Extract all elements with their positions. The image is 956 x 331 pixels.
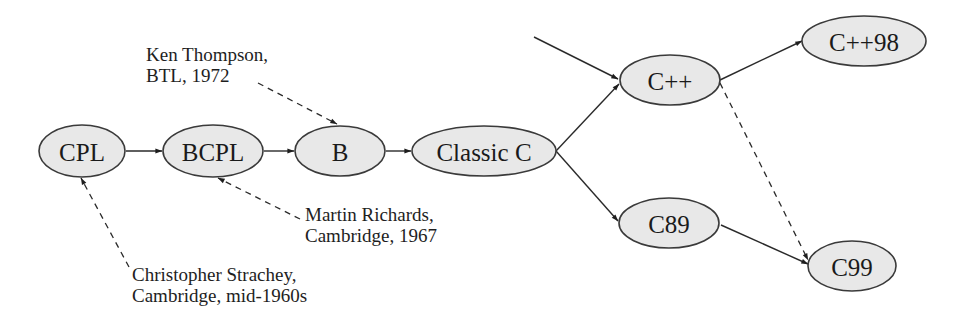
annotation-line: Christopher Strachey, (132, 264, 307, 285)
node-label: C++98 (829, 29, 899, 56)
annotation-line: Martin Richards, (305, 204, 437, 225)
node-bcpl: BCPL (163, 125, 263, 177)
node-cpp: C++ (620, 55, 720, 105)
node-label: C99 (831, 254, 873, 281)
edge-external-to-cpp (534, 37, 618, 79)
pointer-ken-thompson-to-b (258, 83, 337, 124)
node-c89: C89 (619, 198, 719, 248)
pointer-strachey-to-cpl (81, 178, 129, 267)
annotation-christopher-strachey: Christopher Strachey, Cambridge, mid-196… (132, 264, 307, 306)
node-label: Classic C (436, 139, 531, 166)
edge-c89-to-c99 (721, 225, 808, 264)
node-cpl: CPL (39, 125, 125, 177)
node-b: B (295, 126, 385, 176)
annotation-line: Cambridge, mid-1960s (132, 285, 307, 306)
annotation-line: Cambridge, 1967 (305, 225, 437, 246)
node-c99: C99 (808, 241, 896, 291)
node-label: C89 (648, 211, 690, 238)
edge-cpp-to-cpp98 (720, 41, 802, 80)
annotation-line: BTL, 1972 (146, 65, 268, 86)
node-label: B (332, 139, 349, 166)
node-cpp98: C++98 (802, 16, 926, 66)
annotation-ken-thompson: Ken Thompson, BTL, 1972 (146, 44, 268, 86)
pointer-martin-richards-to-bcpl (218, 178, 300, 219)
edge-classic-c-to-c89 (556, 151, 618, 221)
node-label: C++ (648, 68, 693, 95)
node-label: CPL (59, 139, 105, 166)
node-classic-c: Classic C (412, 126, 556, 176)
edge-cpp-to-c99-dashed (720, 83, 808, 260)
annotation-martin-richards: Martin Richards, Cambridge, 1967 (305, 204, 437, 246)
node-label: BCPL (182, 139, 245, 166)
edge-classic-c-to-cpp (556, 84, 619, 151)
annotation-line: Ken Thompson, (146, 44, 268, 65)
